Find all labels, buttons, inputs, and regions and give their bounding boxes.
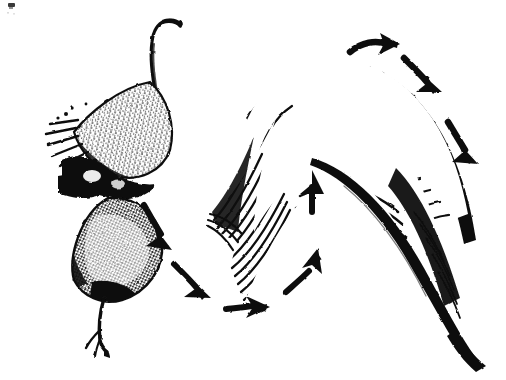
illustration-figure: Black and white engraving of a seed pod …: [0, 0, 506, 380]
illustration-canvas: Black and white engraving of a seed pod …: [0, 0, 506, 380]
